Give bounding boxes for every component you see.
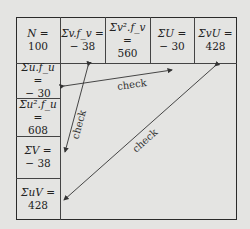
check-arrows [0, 0, 250, 229]
